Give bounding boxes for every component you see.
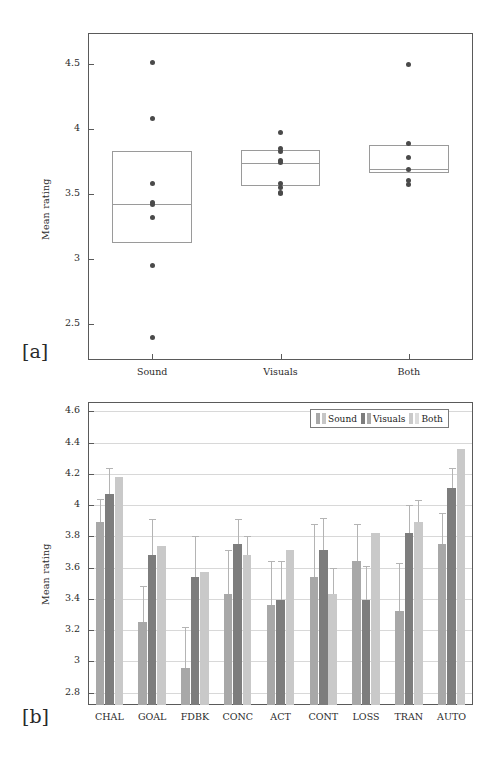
legend-swatch-both	[409, 413, 413, 424]
panel-a-ytick-label: 4.5	[44, 57, 80, 68]
legend-item-sound[interactable]: Sound	[316, 413, 357, 424]
bar-both	[328, 594, 337, 705]
error-bar-cap	[106, 468, 113, 469]
bar-both	[457, 449, 466, 705]
panel-a-xtick-mark	[152, 354, 153, 360]
bar-sound	[138, 622, 147, 705]
panel-a-xtick-mark	[281, 354, 282, 360]
panel-b-ytick-mark	[88, 661, 94, 662]
error-bar-line	[152, 519, 153, 555]
error-bar-cap	[268, 561, 275, 562]
panel-a-xtick-label: Visuals	[231, 366, 331, 377]
bar-sound	[181, 668, 190, 705]
boxplot-data-point	[278, 149, 283, 154]
bar-sound	[395, 611, 404, 705]
bar-sound	[310, 577, 319, 705]
error-bar-line	[323, 518, 324, 551]
panel-b-ytick-mark	[88, 411, 94, 412]
error-bar-cap	[140, 586, 147, 587]
boxplot-data-point	[150, 181, 155, 186]
panel-b-ytick-mark	[88, 599, 94, 600]
panel-b-label: [b]	[22, 705, 49, 727]
panel-b-gridline	[89, 474, 472, 475]
bar-visuals	[276, 600, 285, 705]
bar-both	[414, 522, 423, 705]
bar-sound	[224, 594, 233, 705]
panel-a-ytick-label: 3	[44, 252, 80, 263]
bar-both	[200, 572, 209, 705]
bar-sound	[96, 522, 105, 705]
panel-a-ytick-label: 4	[44, 122, 80, 133]
bar-both	[286, 550, 295, 705]
error-bar-cap	[97, 499, 104, 500]
panel-a-ytick-mark	[88, 259, 94, 260]
panel-b-ytick-mark	[88, 630, 94, 631]
bar-visuals	[148, 555, 157, 705]
panel-b-ytick-mark	[88, 693, 94, 694]
bar-visuals	[362, 600, 371, 705]
bar-both	[115, 477, 124, 705]
legend-label-sound: Sound	[328, 414, 357, 424]
error-bar-line	[452, 468, 453, 488]
bar-sound	[267, 605, 276, 705]
bar-sound	[352, 561, 361, 705]
error-bar-line	[100, 499, 101, 522]
error-bar-cap	[182, 627, 189, 628]
bar-both	[157, 546, 166, 705]
error-bar-cap	[225, 550, 232, 551]
error-bar-line	[314, 524, 315, 577]
error-bar-line	[399, 563, 400, 611]
panel-a-ytick-mark	[88, 129, 94, 130]
panel-b-ytick-label: 3	[44, 654, 80, 665]
legend-swatch-alt-sound	[322, 413, 326, 424]
panel-b-ytick-label: 4.6	[44, 404, 80, 415]
bar-visuals	[233, 544, 242, 705]
error-bar-cap	[406, 505, 413, 506]
bar-visuals	[105, 494, 114, 705]
error-bar-cap	[415, 500, 422, 501]
boxplot-data-point	[150, 215, 155, 220]
panel-b-ytick-label: 4.4	[44, 436, 80, 447]
panel-b-xtick-label: AUTO	[402, 711, 502, 722]
panel-a-boxplot: [a] Mean rating 2.533.544.5SoundVisualsB…	[0, 0, 503, 390]
panel-a-ytick-label: 3.5	[44, 187, 80, 198]
legend-label-both: Both	[421, 414, 442, 424]
error-bar-line	[185, 627, 186, 668]
error-bar-cap	[311, 524, 318, 525]
legend-swatch-sound	[316, 413, 320, 424]
error-bar-cap	[192, 536, 199, 537]
error-bar-line	[238, 519, 239, 544]
error-bar-cap	[244, 536, 251, 537]
error-bar-cap	[278, 561, 285, 562]
panel-b-ytick-label: 3.8	[44, 529, 80, 540]
legend-swatch-alt-visuals	[367, 413, 371, 424]
panel-b-ytick-mark	[88, 568, 94, 569]
panel-b-barchart: [b] Mean rating 2.833.23.43.63.844.24.44…	[0, 390, 503, 778]
panel-a-xtick-label: Sound	[102, 366, 202, 377]
panel-b-ytick-label: 3.2	[44, 623, 80, 634]
panel-b-legend[interactable]: SoundVisualsBoth	[310, 409, 449, 428]
panel-a-ytick-mark	[88, 324, 94, 325]
bar-visuals	[191, 577, 200, 705]
error-bar-cap	[235, 519, 242, 520]
panel-b-gridline	[89, 505, 472, 506]
error-bar-cap	[363, 566, 370, 567]
legend-swatch-alt-both	[415, 413, 419, 424]
panel-a-ytick-mark	[88, 194, 94, 195]
error-bar-line	[195, 536, 196, 577]
error-bar-line	[409, 505, 410, 533]
boxplot-box	[112, 151, 192, 243]
legend-item-both[interactable]: Both	[409, 413, 442, 424]
panel-a-ytick-mark	[88, 64, 94, 65]
panel-a-xtick-mark	[409, 354, 410, 360]
legend-item-visuals[interactable]: Visuals	[361, 413, 406, 424]
error-bar-line	[228, 550, 229, 594]
error-bar-line	[247, 536, 248, 555]
bar-visuals	[447, 488, 456, 705]
error-bar-line	[418, 500, 419, 522]
error-bar-cap	[396, 563, 403, 564]
bar-both	[243, 555, 252, 705]
panel-b-ytick-mark	[88, 474, 94, 475]
error-bar-line	[366, 566, 367, 600]
legend-swatch-visuals	[361, 413, 365, 424]
